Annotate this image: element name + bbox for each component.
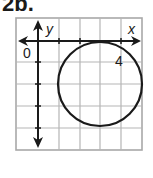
x-axis-label: x bbox=[127, 21, 136, 37]
grid bbox=[16, 18, 142, 150]
x-axis bbox=[22, 38, 136, 44]
coordinate-plane: y x 0 4 bbox=[0, 0, 153, 178]
origin-label: 0 bbox=[23, 45, 31, 61]
y-axis-label: y bbox=[45, 21, 54, 37]
x-tick-label-4: 4 bbox=[115, 53, 123, 69]
